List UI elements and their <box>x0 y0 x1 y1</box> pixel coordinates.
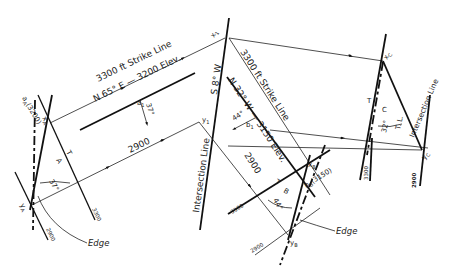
view-c-3300-line <box>370 138 372 181</box>
point-yB-label: yB <box>290 239 298 248</box>
view-b-B-label: B <box>282 187 290 196</box>
arrow-marker <box>105 167 108 169</box>
view-b-edge-line <box>288 155 310 240</box>
view-c-3300-label: 3300 <box>363 166 369 180</box>
view-a-A-label: A <box>54 157 63 165</box>
geology-diagram: 3300 ft Strike Line N 65° E — 3200 Elev.… <box>0 0 449 279</box>
view-b-2900-label: 2900 <box>249 241 264 254</box>
vein-a-dip-label: 37° <box>144 102 155 116</box>
intersection-line-right-label: Intersection Line <box>408 77 441 139</box>
view-b-plane-line <box>280 145 325 265</box>
view-c-2900-label: 2900 <box>411 173 417 188</box>
point-x1-label: x1 <box>209 29 220 40</box>
intersection-line-left-label: Intersection Line <box>191 137 211 213</box>
view-c-T-label: T <box>366 97 372 105</box>
view-c-tl-label: T. L. <box>394 115 405 131</box>
point-bB-label: bB(3150) <box>303 166 334 190</box>
point-yC-label: yC <box>420 150 432 162</box>
view-a-dip-label: 37° <box>47 178 60 193</box>
arrow-marker <box>160 140 163 141</box>
bearing-s8w-label: S 8° W <box>209 64 223 96</box>
point-yA-label: yA <box>17 202 29 214</box>
edge-label-left: Edge <box>88 238 109 248</box>
view-c-plane-line <box>367 62 383 155</box>
point-aA-label: aA(3200) <box>19 95 42 127</box>
view-b-dip-label: 44° <box>271 197 284 212</box>
point-b1-label: b1 <box>246 121 254 130</box>
view-b-2900-line <box>255 208 320 255</box>
point-y1-label: y1 <box>202 116 209 125</box>
view-c-plunge-label: 32° <box>380 120 390 134</box>
line-2900-mid-label: 2900 <box>242 151 263 176</box>
s8w-line <box>200 18 229 230</box>
edge-label-right: Edge <box>336 226 357 236</box>
view-a-2900-label: 2900 <box>45 227 57 243</box>
diagram-canvas: 3300 ft Strike Line N 65° E — 3200 Elev.… <box>0 0 449 279</box>
view-c-C-label: C <box>382 106 387 114</box>
point-a1-label: a1 <box>137 99 144 108</box>
point-xB-label: xB <box>308 161 316 170</box>
view-a-3300-line <box>38 95 95 220</box>
vein-b-dip-label: 44° <box>231 109 246 122</box>
edge-curve-right <box>300 220 335 231</box>
